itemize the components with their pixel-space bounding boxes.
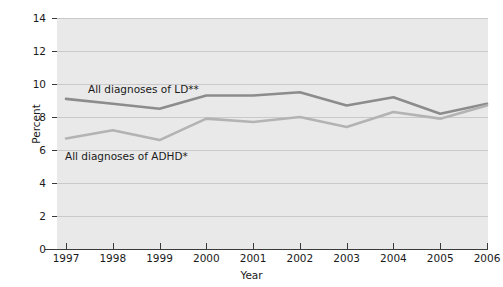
y-tick-label: 0 — [0, 244, 46, 254]
x-tick-mark — [253, 243, 254, 249]
x-tick-label: 1999 — [137, 252, 183, 264]
gridline — [57, 216, 488, 217]
x-tick-label: 1997 — [43, 252, 89, 264]
y-tick-label: 12 — [0, 46, 46, 56]
y-tick-label: 8 — [0, 112, 46, 122]
x-tick-label: 2000 — [183, 252, 229, 264]
x-tick-mark — [206, 243, 207, 249]
x-tick-mark — [487, 243, 488, 249]
x-tick-mark — [440, 243, 441, 249]
y-tick-mark — [52, 51, 57, 52]
x-tick-mark — [66, 243, 67, 249]
gridline — [57, 183, 488, 184]
y-tick-mark — [52, 18, 57, 19]
x-axis-title: Year — [0, 269, 503, 281]
y-tick-label: 2 — [0, 211, 46, 221]
x-tick-mark — [300, 243, 301, 249]
x-tick-label: 2003 — [324, 252, 370, 264]
x-tick-mark — [113, 243, 114, 249]
x-tick-label: 2005 — [417, 252, 463, 264]
y-tick-mark — [52, 183, 57, 184]
series-label-ld: All diagnoses of LD** — [88, 83, 199, 95]
x-axis-line — [45, 249, 488, 250]
y-tick-mark — [52, 150, 57, 151]
y-tick-mark — [52, 249, 57, 250]
x-tick-label: 2004 — [370, 252, 416, 264]
y-tick-mark — [52, 84, 57, 85]
y-tick-label: 4 — [0, 178, 46, 188]
x-tick-mark — [160, 243, 161, 249]
y-tick-label: 6 — [0, 145, 46, 155]
x-tick-label: 2002 — [277, 252, 323, 264]
y-tick-mark — [52, 216, 57, 217]
gridline — [57, 18, 488, 19]
plot-area — [57, 18, 488, 249]
y-tick-mark — [52, 117, 57, 118]
gridline — [57, 117, 488, 118]
y-tick-label: 14 — [0, 13, 46, 23]
x-tick-mark — [347, 243, 348, 249]
line-chart: Percent Year All diagnoses of LD** All d… — [0, 0, 503, 287]
series-label-adhd: All diagnoses of ADHD* — [65, 150, 188, 162]
y-tick-label: 10 — [0, 79, 46, 89]
gridline — [57, 51, 488, 52]
x-tick-label: 2001 — [230, 252, 276, 264]
x-tick-label: 2006 — [464, 252, 503, 264]
x-tick-mark — [393, 243, 394, 249]
x-tick-label: 1998 — [90, 252, 136, 264]
